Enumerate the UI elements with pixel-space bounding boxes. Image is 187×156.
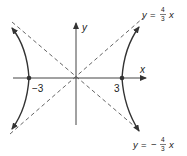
svg-text:x: x (168, 139, 175, 150)
hyperbola-right-branch-upper (122, 27, 139, 78)
hyperbola-left-branch-upper (12, 28, 29, 78)
svg-text:y: y (132, 139, 139, 150)
vertex-right-label: 3 (114, 83, 120, 94)
svg-text:3: 3 (161, 145, 165, 152)
y-axis-label: y (81, 22, 88, 33)
svg-text:=: = (141, 139, 147, 150)
hyperbola-diagram: x y −3 3 y = 4 3 x y = − 4 3 x (0, 0, 187, 156)
svg-text:x: x (168, 9, 175, 20)
vertex-left-label: −3 (32, 83, 44, 94)
vertex-right-dot (120, 76, 125, 81)
asymptote-label-positive: y = 4 3 x (141, 6, 175, 22)
svg-text:3: 3 (161, 15, 165, 22)
svg-text:=: = (150, 9, 156, 20)
asymptote-label-negative: y = − 4 3 x (132, 136, 175, 152)
svg-text:4: 4 (161, 6, 165, 13)
svg-text:−: − (151, 139, 157, 150)
svg-text:y: y (141, 9, 148, 20)
x-axis-label: x (139, 64, 146, 75)
hyperbola-left-branch-lower (12, 78, 29, 129)
svg-text:4: 4 (161, 136, 165, 143)
vertex-left-dot (27, 76, 32, 81)
